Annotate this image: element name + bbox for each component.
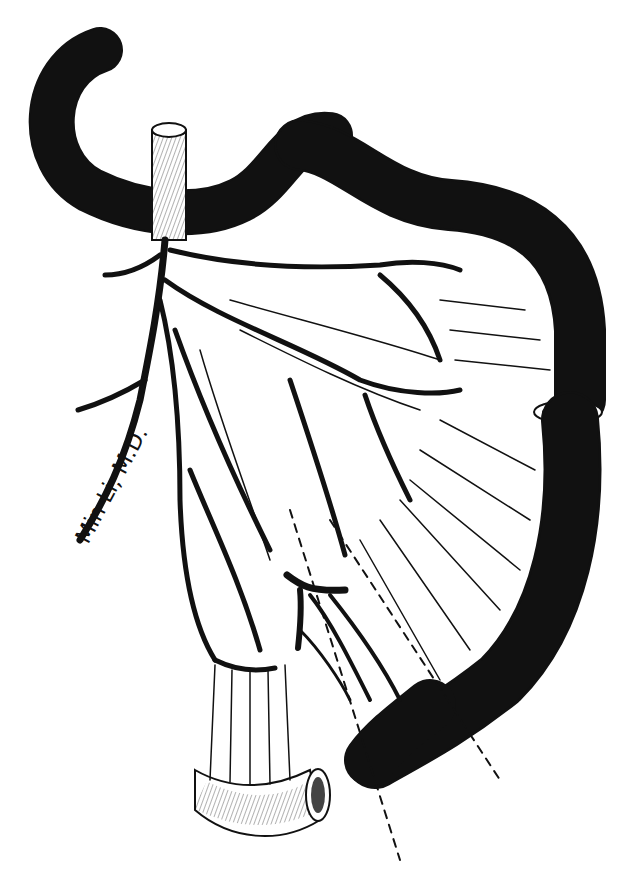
medical-illustration: Min Li, M.D. [0, 0, 632, 878]
descending-bowel [370, 420, 572, 760]
artist-signature: Min Li, M.D. [70, 422, 152, 547]
lower-small-bowel [195, 769, 330, 836]
